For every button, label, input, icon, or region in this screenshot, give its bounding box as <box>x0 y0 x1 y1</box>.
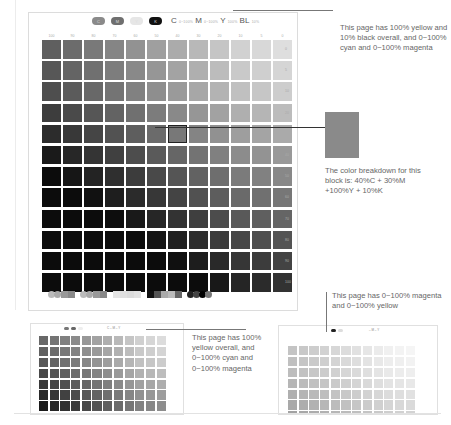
color-cell <box>168 210 187 229</box>
mini-color-cell <box>103 369 112 378</box>
color-cell <box>252 82 271 101</box>
mini-formula: C – M – Y <box>107 326 120 330</box>
color-cell <box>231 167 250 186</box>
row-label: 70 <box>285 210 291 229</box>
color-cell <box>147 252 166 271</box>
mini-color-cell <box>406 379 415 388</box>
color-cell <box>84 146 103 165</box>
mini-color-cell <box>341 390 350 399</box>
reference-swatch <box>168 291 175 298</box>
color-cell <box>252 252 271 271</box>
color-cell <box>210 61 229 80</box>
color-cell <box>210 167 229 186</box>
mini-color-cell <box>395 357 404 366</box>
mini-color-cell <box>320 357 329 366</box>
mini-color-cell <box>114 369 123 378</box>
mini-color-cell <box>309 390 318 399</box>
color-cell <box>252 273 271 292</box>
leader-line-right <box>326 292 327 332</box>
color-cell <box>231 210 250 229</box>
row-label: 40 <box>285 146 291 165</box>
mini-color-cell <box>341 400 350 409</box>
color-cell <box>42 82 61 101</box>
mini-color-cell <box>331 368 340 377</box>
mini-color-cell <box>374 346 383 355</box>
mini-color-cell <box>374 357 383 366</box>
mini-color-cell <box>341 346 350 355</box>
reference-swatch <box>134 291 141 298</box>
mini-color-cell <box>384 357 393 366</box>
mini-color-cell <box>157 358 166 367</box>
mini-color-cell <box>125 401 134 410</box>
mini-color-cell <box>157 336 166 345</box>
mini-color-cell <box>299 390 308 399</box>
color-cell <box>42 188 61 207</box>
column-label: 60 <box>126 34 145 38</box>
mini-color-cell <box>363 368 372 377</box>
color-cell <box>189 167 208 186</box>
row-label: 60 <box>285 188 291 207</box>
row-label: 10 <box>285 82 291 101</box>
mini-color-cell <box>82 358 91 367</box>
note-callout: The color breakdown for this block is: 4… <box>325 166 435 197</box>
reference-swatch <box>113 291 120 298</box>
mini-color-cell <box>395 400 404 409</box>
color-cell <box>105 167 124 186</box>
bottom-rule <box>14 413 441 414</box>
mini-color-cell <box>157 380 166 389</box>
color-cell <box>63 231 82 250</box>
color-cell <box>126 188 145 207</box>
mini-color-cell <box>39 358 48 367</box>
color-cell <box>84 210 103 229</box>
mini-color-cell <box>320 346 329 355</box>
color-cell <box>189 231 208 250</box>
mini-color-cell <box>125 358 134 367</box>
color-cell <box>42 167 61 186</box>
column-label: 5 <box>252 34 271 38</box>
color-cell <box>147 40 166 59</box>
mini-color-cell <box>135 347 144 356</box>
mini-pills <box>64 327 83 330</box>
mini-color-cell <box>331 379 340 388</box>
color-cell <box>63 40 82 59</box>
mini-color-cell <box>82 369 91 378</box>
color-cell <box>168 167 187 186</box>
color-cell <box>42 252 61 271</box>
color-cell <box>105 231 124 250</box>
mini-color-cell <box>103 401 112 410</box>
color-cell <box>63 104 82 123</box>
color-cell <box>168 252 187 271</box>
column-labels: 10090807060504030201050 <box>42 34 292 38</box>
color-cell <box>105 146 124 165</box>
color-cell <box>126 104 145 123</box>
mini-color-cell <box>60 336 69 345</box>
color-cell <box>210 252 229 271</box>
color-cell <box>252 231 271 250</box>
column-label: 80 <box>84 34 103 38</box>
mini-color-cell <box>135 380 144 389</box>
mini-color-cell <box>125 347 134 356</box>
column-label: 0 <box>273 34 292 38</box>
mini-color-cell <box>92 380 101 389</box>
mini-color-cell <box>92 401 101 410</box>
color-cell <box>105 273 124 292</box>
color-cell <box>42 61 61 80</box>
mini-color-cell <box>60 390 69 399</box>
color-cell <box>231 252 250 271</box>
row-label: 5 <box>285 61 291 80</box>
color-cell <box>84 273 103 292</box>
mini-color-cell <box>299 379 308 388</box>
mini-color-cell <box>320 390 329 399</box>
mini-color-cell <box>135 358 144 367</box>
color-cell <box>189 252 208 271</box>
mini-color-cell <box>309 379 318 388</box>
mini-color-cell <box>114 336 123 345</box>
mini-color-cell <box>135 369 144 378</box>
yellow-pill: Y <box>130 17 143 25</box>
mini-color-cell <box>320 368 329 377</box>
note-bottom-right: This page has 0~100% magenta and 0~100% … <box>332 291 442 311</box>
color-cell <box>147 104 166 123</box>
color-cell <box>189 61 208 80</box>
color-cell <box>231 273 250 292</box>
mini-color-cell <box>374 368 383 377</box>
